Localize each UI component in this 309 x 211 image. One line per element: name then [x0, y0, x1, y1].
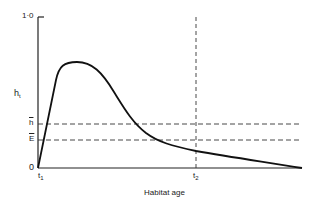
y-axis-label: ht: [14, 89, 21, 99]
t1-label: t1: [38, 172, 44, 181]
x-axis-label: Habitat age: [144, 189, 185, 197]
t2-label-sub: 2: [195, 175, 198, 181]
e-bar-label: E: [29, 135, 34, 143]
y-axis-label-sub: t: [19, 93, 21, 99]
t2-label: t2: [193, 172, 199, 181]
chart-canvas: [0, 0, 309, 211]
h-bar-label: h: [29, 119, 33, 127]
ht-curve: [38, 62, 302, 168]
y-tick-label-top: 1·0: [22, 12, 34, 20]
t1-label-sub: 1: [40, 175, 43, 181]
y-tick-label-zero: 0: [29, 163, 34, 172]
